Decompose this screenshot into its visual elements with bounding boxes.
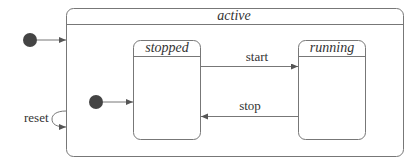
state-diagram: active stopped running start stop reset — [0, 0, 419, 164]
state-running-title: running — [310, 40, 354, 55]
initial-node-inner[interactable] — [89, 95, 103, 109]
transition-stop-label: stop — [239, 98, 261, 113]
state-stopped[interactable]: stopped — [134, 40, 201, 140]
initial-node-outer[interactable] — [23, 33, 37, 47]
state-stopped-title: stopped — [145, 40, 190, 55]
transition-reset[interactable]: reset — [24, 110, 66, 127]
state-active-title: active — [217, 8, 250, 23]
transition-reset-label: reset — [24, 110, 49, 125]
transition-start-label: start — [246, 49, 269, 64]
state-running[interactable]: running — [299, 40, 366, 140]
